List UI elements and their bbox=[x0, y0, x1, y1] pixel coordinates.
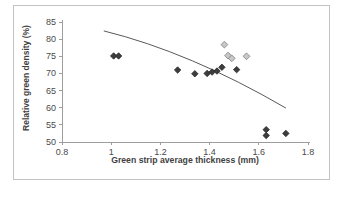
dark-filled-diamonds-marker bbox=[115, 53, 121, 59]
y-tick-label: 75 bbox=[46, 51, 56, 61]
y-tick-label: 65 bbox=[46, 86, 56, 96]
y-tick-label: 70 bbox=[46, 68, 56, 78]
y-axis-title: Relative green density (%) bbox=[21, 13, 31, 143]
x-axis-title: Green strip average thickness (mm) bbox=[62, 155, 308, 165]
light-filled-diamonds-marker bbox=[243, 53, 250, 60]
y-tick-label: 85 bbox=[46, 17, 56, 27]
dark-filled-diamonds-marker bbox=[283, 130, 289, 136]
dark-filled-diamonds-marker bbox=[263, 132, 269, 138]
y-tick-label: 60 bbox=[46, 103, 56, 113]
y-tick-label: 50 bbox=[46, 137, 56, 147]
chart-figure: 0.811.21.41.61.85055606570758085 Green s… bbox=[0, 0, 337, 198]
light-filled-diamonds-marker bbox=[221, 41, 228, 48]
trendline bbox=[104, 31, 286, 108]
scatter-plot-canvas: 0.811.21.41.61.85055606570758085 bbox=[0, 0, 337, 198]
y-tick-label: 55 bbox=[46, 120, 56, 130]
dark-filled-diamonds-marker bbox=[219, 64, 225, 70]
y-tick-label: 80 bbox=[46, 34, 56, 44]
dark-filled-diamonds-marker bbox=[233, 66, 239, 72]
dark-filled-diamonds-marker bbox=[192, 71, 198, 77]
dark-filled-diamonds-marker bbox=[174, 67, 180, 73]
